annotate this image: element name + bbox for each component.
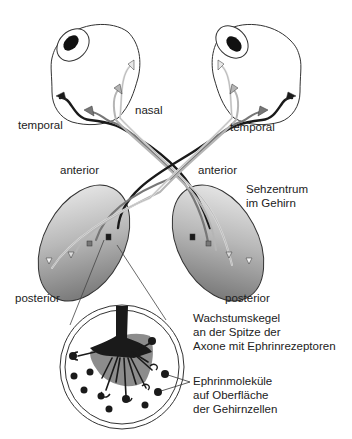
label-growth-cone-2: an der Spitze der (193, 325, 281, 339)
label-posterior-right: posterior (225, 291, 270, 305)
label-ephrin-1: Ephrinmoleküle (193, 374, 272, 388)
label-temporal-right: temporal (230, 120, 275, 134)
right-eye (209, 19, 301, 124)
cropped-caption-line (18, 432, 340, 439)
label-ephrin-2: auf Oberfläche (193, 388, 268, 402)
label-temporal-left: temporal (18, 118, 63, 132)
label-anterior-right: anterior (198, 163, 237, 177)
label-growth-cone-3: Axone mit Ephrinrezeptoren (193, 339, 336, 353)
label-ephrin-3: der Gehirnzellen (193, 402, 277, 416)
label-posterior-left: posterior (15, 291, 60, 305)
label-anterior-left: anterior (60, 163, 99, 177)
left-eye (50, 22, 139, 124)
label-visual-center-2: im Gehirn (246, 196, 296, 210)
retinotectal-diagram (0, 0, 352, 439)
label-growth-cone-1: Wachstumskegel (193, 311, 280, 325)
growth-cone-magnified (60, 305, 190, 429)
label-visual-center-1: Sehzentrum (246, 182, 308, 196)
label-nasal: nasal (135, 103, 163, 117)
